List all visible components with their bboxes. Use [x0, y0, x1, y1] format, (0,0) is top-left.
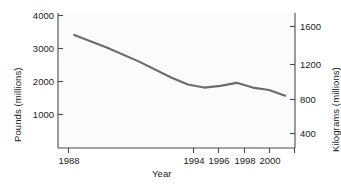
x-tick-label-1988: 1988 — [49, 155, 89, 166]
x-tick-label-2000: 2000 — [250, 155, 290, 166]
x-axis-title: Year — [152, 168, 172, 179]
left-tick-label-3000: 3000 — [18, 43, 54, 54]
y-axis-left-title: Pounds (millions) — [12, 67, 23, 142]
y-axis-right-title: Kilograms (millions) — [330, 67, 341, 152]
x-axis-ticks — [69, 148, 295, 153]
left-tick-label-4000: 4000 — [18, 10, 54, 21]
left-tick-label-2000: 2000 — [18, 76, 54, 87]
right-tick-label-800: 800 — [300, 94, 316, 105]
right-tick-label-400: 400 — [300, 128, 316, 139]
right-tick-label-1600: 1600 — [300, 21, 321, 32]
left-tick-label-1000: 1000 — [18, 109, 54, 120]
right-tick-label-1200: 1200 — [300, 59, 321, 70]
